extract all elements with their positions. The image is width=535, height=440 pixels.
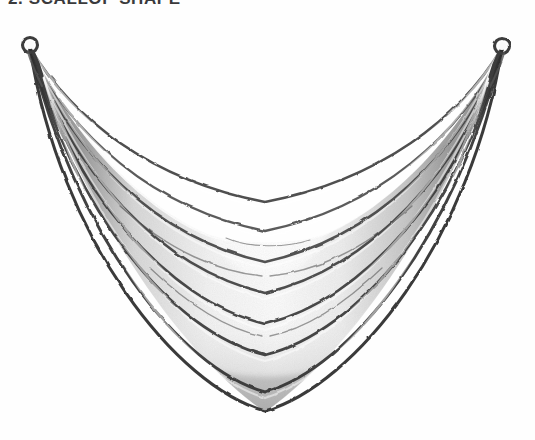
sketch-page: 2. SCALLOP SHAPE <box>0 0 535 440</box>
swag-figure <box>0 0 535 440</box>
swag-illustration <box>0 0 535 440</box>
left-ring-inner <box>26 41 34 49</box>
fabric-shading <box>0 0 535 440</box>
right-ring-inner <box>498 42 506 50</box>
paper-grain <box>0 0 535 440</box>
left-ring-hook <box>23 38 43 87</box>
right-ring-hook <box>490 39 510 88</box>
